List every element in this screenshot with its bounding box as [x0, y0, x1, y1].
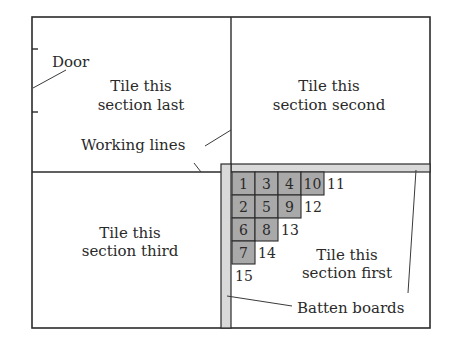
batten-leader-vertical — [227, 296, 292, 306]
working-lines-label: Working lines — [81, 136, 185, 154]
tile: 5 — [255, 195, 278, 218]
tile: 10 — [301, 172, 324, 195]
next-tile-number: 15 — [235, 268, 253, 284]
working-lines-leader-vertical — [205, 130, 231, 146]
section-third-label-line1: Tile this — [99, 224, 160, 242]
door-leader-line — [33, 70, 66, 88]
section-first-label-line2: section first — [302, 264, 392, 282]
section-third-label-line2: section third — [82, 242, 179, 260]
batten-leader-horizontal — [408, 170, 416, 293]
door-label: Door — [52, 53, 90, 71]
tiling-order-diagram: 13410259687 1112131415 Tile this section… — [0, 0, 453, 346]
tile-number: 7 — [239, 245, 248, 261]
tile-number: 6 — [239, 222, 248, 238]
batten-board-vertical — [221, 164, 231, 328]
section-last-label-line2: section last — [98, 96, 185, 114]
tile: 2 — [232, 195, 255, 218]
tile: 6 — [232, 218, 255, 241]
tiles-placed: 13410259687 — [232, 172, 324, 264]
section-first-label-line1: Tile this — [316, 246, 377, 264]
tile: 1 — [232, 172, 255, 195]
tile-number: 2 — [239, 199, 248, 215]
next-tile-number: 12 — [304, 199, 322, 215]
next-tile-number: 13 — [281, 222, 299, 238]
next-tile-number: 14 — [258, 245, 276, 261]
tile-number: 9 — [285, 199, 294, 215]
tile: 7 — [232, 241, 255, 264]
tile: 4 — [278, 172, 301, 195]
tile: 3 — [255, 172, 278, 195]
tile: 9 — [278, 195, 301, 218]
section-second-label-line2: section second — [273, 96, 386, 114]
batten-board-horizontal — [231, 164, 430, 172]
section-last-label-line1: Tile this — [110, 77, 171, 95]
tile-number: 1 — [239, 176, 248, 192]
working-lines-leader-horizontal — [194, 163, 201, 172]
tile-number: 8 — [262, 222, 271, 238]
tile-number: 4 — [285, 176, 294, 192]
batten-boards-label: Batten boards — [297, 299, 404, 317]
tile-number: 10 — [304, 176, 322, 192]
tile: 8 — [255, 218, 278, 241]
next-tile-number: 11 — [327, 176, 345, 192]
tile-number: 5 — [262, 199, 271, 215]
tile-number: 3 — [262, 176, 271, 192]
section-second-label-line1: Tile this — [298, 77, 359, 95]
